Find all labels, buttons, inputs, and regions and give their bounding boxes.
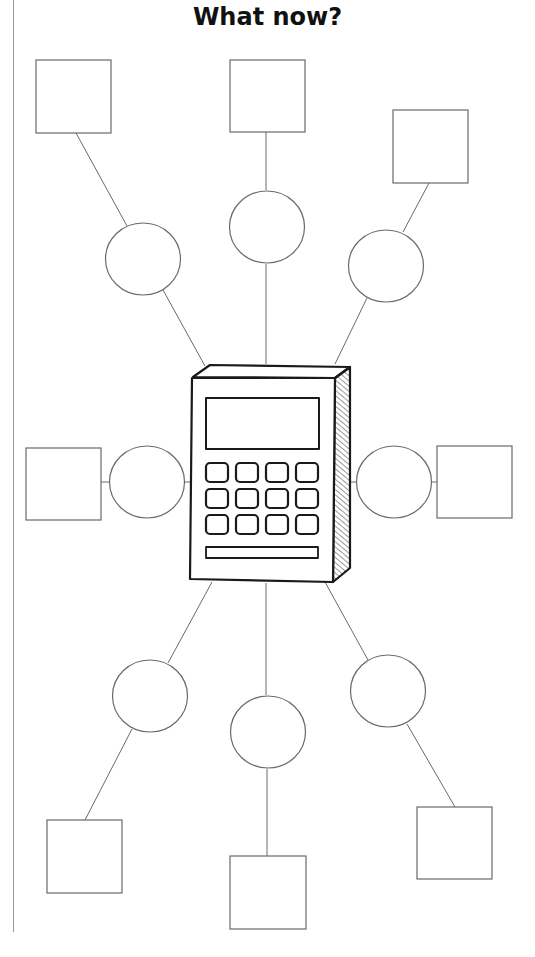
circle-middle-left[interactable] bbox=[110, 446, 185, 518]
spider-diagram bbox=[0, 0, 535, 957]
calculator-icon bbox=[190, 365, 350, 582]
circle-middle-right[interactable] bbox=[357, 446, 432, 518]
box-top-right[interactable] bbox=[393, 110, 468, 183]
box-middle-left[interactable] bbox=[26, 448, 101, 520]
circle-bottom-center[interactable] bbox=[231, 696, 306, 768]
box-top-left[interactable] bbox=[36, 60, 111, 133]
circle-top-left[interactable] bbox=[106, 223, 181, 295]
circle-bottom-left[interactable] bbox=[113, 660, 188, 732]
box-bottom-left[interactable] bbox=[47, 820, 122, 893]
circle-top-right[interactable] bbox=[349, 230, 424, 302]
circle-top-center[interactable] bbox=[230, 191, 305, 263]
box-middle-right[interactable] bbox=[437, 446, 512, 518]
box-bottom-center[interactable] bbox=[230, 856, 306, 929]
box-bottom-right[interactable] bbox=[417, 807, 492, 879]
box-top-center[interactable] bbox=[230, 60, 305, 132]
circle-bottom-right[interactable] bbox=[351, 655, 426, 727]
